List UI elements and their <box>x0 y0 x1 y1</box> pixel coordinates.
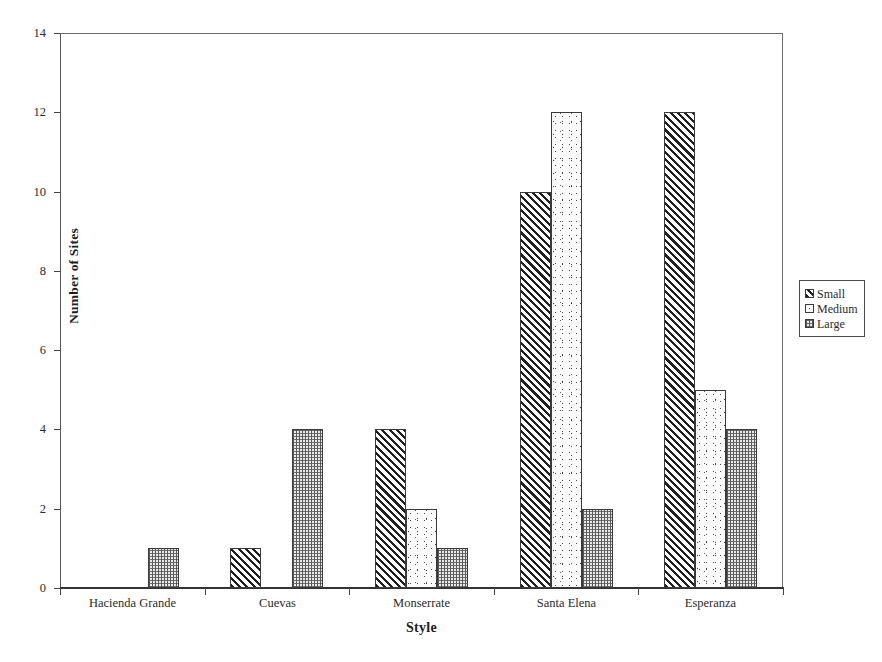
y-axis-tick <box>54 33 60 34</box>
y-axis-tick-label: 6 <box>0 344 46 357</box>
y-axis-tick-label: 10 <box>0 186 46 199</box>
legend-item: Large <box>805 316 860 331</box>
legend-label: Medium <box>817 303 858 315</box>
bar <box>664 112 695 588</box>
bar <box>551 112 582 588</box>
bar <box>375 429 406 588</box>
legend-swatch-small-icon <box>805 289 814 298</box>
legend: Small Medium Large <box>799 280 865 337</box>
bar <box>582 509 613 588</box>
bar <box>230 548 261 588</box>
legend-item: Medium <box>805 301 860 316</box>
bar <box>695 390 726 588</box>
y-axis-tick <box>54 112 60 113</box>
y-axis-tick-label: 0 <box>0 582 46 595</box>
x-axis-tick-label: Cuevas <box>205 596 350 611</box>
y-axis-tick <box>54 350 60 351</box>
legend-swatch-large-icon <box>805 319 814 328</box>
x-axis-title: Style <box>60 620 783 636</box>
x-axis-separator-tick <box>638 588 639 595</box>
y-axis-tick-label: 8 <box>0 265 46 278</box>
y-axis-tick-label: 12 <box>0 106 46 119</box>
bar-chart: Number of Sites Style 02468101214 Hacien… <box>0 0 882 662</box>
bar <box>726 429 757 588</box>
y-axis-tick <box>54 271 60 272</box>
y-axis-title: Number of Sites <box>66 196 82 356</box>
x-axis-separator-tick <box>783 588 784 595</box>
x-axis-tick-label: Santa Elena <box>494 596 639 611</box>
y-axis-tick-label: 4 <box>0 423 46 436</box>
bar <box>148 548 179 588</box>
x-axis-tick-label: Hacienda Grande <box>60 596 205 611</box>
x-axis-tick-label: Monserrate <box>349 596 494 611</box>
x-axis-separator-tick <box>205 588 206 595</box>
y-axis-tick-label: 2 <box>0 503 46 516</box>
bar <box>292 429 323 588</box>
y-axis-tick <box>54 509 60 510</box>
legend-label: Small <box>817 288 845 300</box>
bar <box>520 192 551 588</box>
y-axis-tick <box>54 192 60 193</box>
bar <box>406 509 437 588</box>
x-axis-separator-tick <box>349 588 350 595</box>
legend-item: Small <box>805 286 860 301</box>
bar <box>437 548 468 588</box>
legend-swatch-medium-icon <box>805 304 814 313</box>
x-axis-separator-tick <box>60 588 61 595</box>
legend-label: Large <box>817 318 845 330</box>
y-axis-tick <box>54 429 60 430</box>
x-axis-separator-tick <box>494 588 495 595</box>
y-axis-tick-label: 14 <box>0 27 46 40</box>
x-axis-tick-label: Esperanza <box>638 596 783 611</box>
